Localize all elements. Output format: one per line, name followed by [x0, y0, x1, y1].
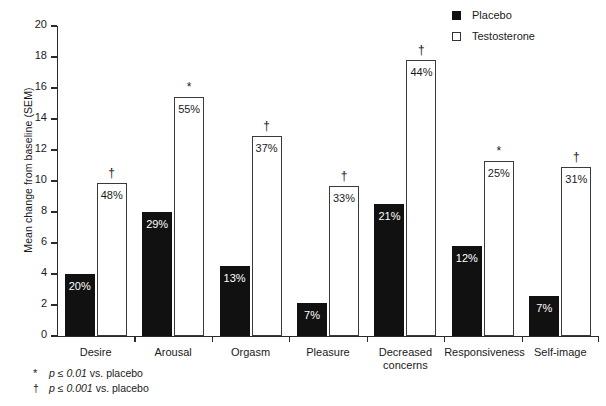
category-label-desire: Desire: [57, 346, 134, 359]
category-label-responsiveness: Responsiveness: [444, 346, 521, 359]
y-tick-18: 18: [51, 56, 57, 57]
y-tick-8: 8: [51, 211, 57, 212]
bar-value-label: 29%: [143, 218, 171, 231]
plot-area: 02468101214161820 20%48%†29%55%*13%37%†7…: [57, 26, 599, 336]
bar-placebo-orgasm: 13%: [220, 266, 250, 336]
y-tick-0: 0: [51, 335, 57, 336]
significance-marker: †: [406, 44, 436, 56]
bar-value-label: 21%: [375, 210, 403, 223]
category-label-line: concerns: [367, 359, 444, 372]
y-tick-4: 4: [51, 273, 57, 274]
y-tick-6: 6: [51, 242, 57, 243]
bar-value-label: 20%: [66, 280, 94, 293]
x-axis-line: [57, 336, 599, 337]
legend-label-placebo: Placebo: [472, 9, 512, 21]
bar-value-label: 44%: [407, 66, 435, 79]
bar-testosterone-decreased-concerns: 44%: [406, 60, 436, 336]
asterisk-icon: *: [33, 366, 49, 381]
bar-value-label: 13%: [221, 272, 249, 285]
dagger-icon: †: [33, 381, 49, 396]
bar-value-label: 33%: [330, 192, 358, 205]
y-tick-16: 16: [51, 87, 57, 88]
bar-value-label: 25%: [485, 167, 513, 180]
bar-testosterone-pleasure: 33%: [329, 186, 359, 336]
y-tick-label-4: 4: [41, 266, 47, 279]
significance-marker: †: [561, 151, 591, 163]
y-tick-label-20: 20: [35, 18, 47, 31]
y-tick-14: 14: [51, 118, 57, 119]
category-label-pleasure: Pleasure: [289, 346, 366, 359]
bar-testosterone-self-image: 31%: [561, 167, 591, 336]
footnote-dagger-text: p ≤ 0.001 vs. placebo: [49, 381, 149, 396]
x-axis-end-tick: [598, 336, 599, 342]
bar-value-label: 7%: [298, 309, 326, 322]
category-label-line: Decreased: [367, 346, 444, 359]
y-tick-label-12: 12: [35, 142, 47, 155]
y-axis-line: [57, 26, 58, 336]
significance-marker: †: [329, 170, 359, 182]
bar-value-label: 48%: [98, 189, 126, 202]
x-axis-separator: [289, 336, 290, 342]
y-tick-2: 2: [51, 304, 57, 305]
significance-marker: †: [252, 120, 282, 132]
bar-value-label: 37%: [253, 142, 281, 155]
category-label-decreased-concerns: Decreasedconcerns: [367, 346, 444, 372]
y-tick-label-16: 16: [35, 80, 47, 93]
footnote-star-text: p ≤ 0.01 vs. placebo: [49, 366, 143, 381]
bar-testosterone-orgasm: 37%: [252, 136, 282, 336]
y-tick-label-6: 6: [41, 235, 47, 248]
bar-placebo-responsiveness: 12%: [452, 246, 482, 336]
y-tick-label-2: 2: [41, 297, 47, 310]
x-axis-separator: [134, 336, 135, 342]
bar-testosterone-responsiveness: 25%: [484, 161, 514, 336]
bar-placebo-decreased-concerns: 21%: [374, 204, 404, 336]
bar-testosterone-desire: 48%: [97, 183, 127, 336]
x-axis-separator: [444, 336, 445, 342]
x-axis-separator: [522, 336, 523, 342]
filled-square-icon: [452, 11, 461, 20]
y-tick-label-14: 14: [35, 111, 47, 124]
y-tick-10: 10: [51, 180, 57, 181]
category-label-arousal: Arousal: [134, 346, 211, 359]
x-axis-separator: [367, 336, 368, 342]
category-label-self-image: Self-image: [522, 346, 599, 359]
footnote-dagger-p: p ≤ 0.001: [49, 382, 93, 394]
legend-item-placebo: Placebo: [452, 6, 602, 24]
footnote-dagger-suffix: vs. placebo: [93, 382, 149, 394]
y-tick-label-0: 0: [41, 328, 47, 341]
y-tick-label-18: 18: [35, 49, 47, 62]
y-tick-20: 20: [51, 25, 57, 26]
bar-placebo-pleasure: 7%: [297, 303, 327, 336]
bar-testosterone-arousal: 55%: [174, 97, 204, 336]
y-tick-label-10: 10: [35, 173, 47, 186]
bar-value-label: 12%: [453, 252, 481, 265]
significance-marker: †: [97, 167, 127, 179]
footnote-star-suffix: vs. placebo: [87, 367, 143, 379]
footnote-dagger: † p ≤ 0.001 vs. placebo: [33, 381, 293, 396]
bar-value-label: 31%: [562, 173, 590, 186]
bar-value-label: 7%: [530, 302, 558, 315]
significance-marker: *: [484, 145, 514, 157]
bar-placebo-arousal: 29%: [142, 212, 172, 336]
bar-placebo-desire: 20%: [65, 274, 95, 336]
significance-marker: *: [174, 81, 204, 93]
category-label-orgasm: Orgasm: [212, 346, 289, 359]
footnote-star-p: p ≤ 0.01: [49, 367, 87, 379]
y-tick-12: 12: [51, 149, 57, 150]
bar-value-label: 55%: [175, 103, 203, 116]
bar-placebo-self-image: 7%: [529, 296, 559, 336]
chart-footnotes: * p ≤ 0.01 vs. placebo † p ≤ 0.001 vs. p…: [33, 366, 293, 396]
y-tick-label-8: 8: [41, 204, 47, 217]
footnote-star: * p ≤ 0.01 vs. placebo: [33, 366, 293, 381]
x-axis-separator: [212, 336, 213, 342]
